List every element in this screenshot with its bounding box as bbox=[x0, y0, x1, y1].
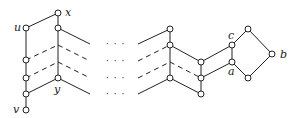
node-mid-2 bbox=[198, 75, 204, 81]
node-mid-3 bbox=[198, 91, 204, 97]
label-u: u bbox=[14, 21, 21, 34]
node-v bbox=[23, 107, 29, 113]
label-a: a bbox=[228, 65, 235, 78]
node-left-3 bbox=[23, 91, 29, 97]
node-diamond-top bbox=[245, 26, 251, 32]
node-y bbox=[55, 75, 61, 81]
label-c: c bbox=[228, 29, 234, 42]
label-x: x bbox=[65, 6, 72, 19]
ellipsis-4: · · · bbox=[106, 89, 125, 99]
labels: x u y v c a b bbox=[13, 6, 287, 116]
nodes bbox=[23, 10, 275, 113]
ellipsis-3: · · · bbox=[106, 73, 125, 83]
ellipsis-group: · · · · · · · · · · · · bbox=[106, 39, 125, 99]
label-v: v bbox=[13, 103, 20, 116]
node-b bbox=[269, 51, 275, 57]
node-x bbox=[55, 10, 61, 16]
node-u bbox=[23, 25, 29, 31]
node-left-2 bbox=[23, 75, 29, 81]
label-b: b bbox=[280, 48, 287, 61]
ellipsis-1: · · · bbox=[106, 39, 125, 49]
node-diamond-bottom bbox=[245, 75, 251, 81]
node-x-below bbox=[55, 25, 61, 31]
ellipsis-2: · · · bbox=[106, 56, 125, 66]
node-right-bottom bbox=[167, 75, 173, 81]
lattice-diagram: · · · · · · · · · · · · bbox=[0, 0, 300, 118]
node-c bbox=[229, 42, 235, 48]
node-right-top bbox=[167, 26, 173, 32]
right-block-edges bbox=[138, 29, 272, 94]
label-y: y bbox=[53, 83, 61, 96]
node-left-1 bbox=[23, 57, 29, 63]
node-mid-1 bbox=[198, 59, 204, 65]
node-right-2 bbox=[167, 42, 173, 48]
